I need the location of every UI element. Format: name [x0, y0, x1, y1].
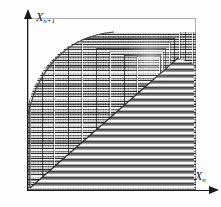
x-axis-arrow-icon	[209, 186, 219, 194]
parabolic-envelope-mask	[28, 18, 196, 190]
y-axis-arrow-icon	[24, 9, 32, 19]
x-axis-label: Xn	[195, 170, 206, 184]
y-axis-line	[27, 18, 28, 191]
attractor-plot	[28, 18, 196, 190]
x-axis-label-subscript: n	[202, 176, 206, 184]
figure-root: Xn+1 Xn	[0, 0, 221, 207]
x-axis-line	[27, 190, 212, 191]
y-axis-label: Xn+1	[36, 11, 55, 25]
y-axis-label-subscript: n+1	[43, 17, 55, 25]
